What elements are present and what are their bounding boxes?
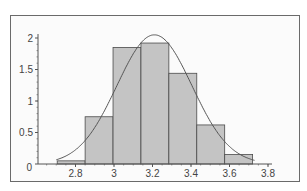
histogram-chart: 00.511.522.833.23.43.63.8 xyxy=(0,0,307,191)
x-tick-label: 3.8 xyxy=(261,168,275,179)
y-tick-label: 0.5 xyxy=(19,127,33,138)
x-tick-label: 3.4 xyxy=(184,168,198,179)
histogram-bar xyxy=(197,125,225,164)
x-tick-label: 3.2 xyxy=(146,168,160,179)
x-tick-label: 3 xyxy=(111,168,117,179)
histogram-bars xyxy=(57,43,252,164)
x-tick-label: 3.6 xyxy=(223,168,237,179)
y-tick-label: 0 xyxy=(26,162,32,173)
x-tick-label: 2.8 xyxy=(69,168,83,179)
y-tick-label: 1.5 xyxy=(19,64,33,75)
histogram-bar xyxy=(141,43,169,164)
y-tick-label: 1 xyxy=(27,96,33,107)
histogram-bar xyxy=(225,155,253,164)
histogram-bar xyxy=(85,117,113,164)
y-tick-label: 2 xyxy=(27,33,33,44)
